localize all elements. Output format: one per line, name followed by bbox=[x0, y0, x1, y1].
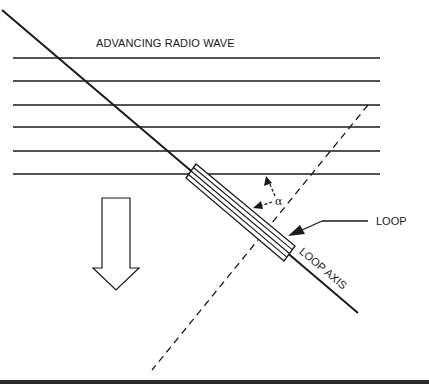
loop-coil bbox=[186, 164, 295, 261]
loop-axis-line bbox=[2, 10, 358, 313]
angle-arrowhead-left-icon bbox=[253, 201, 263, 209]
diagram-title: ADVANCING RADIO WAVE bbox=[96, 37, 235, 49]
loop-antenna-diagram bbox=[0, 0, 429, 384]
angle-alpha-label: α bbox=[275, 195, 282, 208]
bottom-border bbox=[0, 380, 429, 384]
wave-fronts bbox=[13, 58, 380, 174]
loop-callout bbox=[288, 221, 368, 236]
angle-arrowhead-up-icon bbox=[264, 176, 272, 186]
angle-indicator bbox=[253, 176, 275, 209]
wave-direction-arrow-icon bbox=[93, 198, 139, 290]
loop-label: LOOP bbox=[376, 215, 407, 227]
loop-callout-arrowhead-icon bbox=[288, 225, 305, 236]
